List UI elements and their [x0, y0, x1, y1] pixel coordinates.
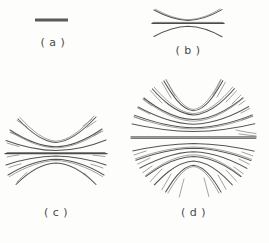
curve-lower-branch-b: [154, 26, 222, 37]
panel-label-b: ( b ): [150, 44, 226, 57]
tick-d-7: [232, 84, 251, 104]
tick-d-2: [163, 74, 175, 96]
curve-upper-branch-b-overstroke: [156, 9, 221, 20]
curve-upper-branch-2-c-overstroke: [11, 132, 101, 148]
panel-label-c: ( c ): [4, 206, 108, 219]
curve-lower-branch-4-d-overstroke: [132, 155, 256, 189]
curve-upper-branch-1-c: [6, 140, 106, 151]
panel-label-d: ( d ): [118, 206, 269, 219]
curve-upper-branch-3-c: [18, 117, 96, 143]
curve-upper-branch-4-d-overstroke: [132, 87, 256, 121]
curve-upper-branch-3-c-overstroke: [20, 116, 94, 141]
tick-d-1: [158, 76, 171, 98]
tick-c-7: [7, 155, 19, 157]
panel-b-artwork: [150, 6, 226, 40]
curve-upper-branch-5-d-overstroke: [145, 75, 242, 114]
curve-lower-branch-6-d-overstroke: [162, 167, 225, 205]
curve-upper-branch-2-c: [10, 129, 102, 147]
tick-d-12: [120, 112, 146, 121]
tick-d-18: [242, 152, 267, 161]
panel-c: [4, 112, 108, 190]
tick-d-13: [242, 111, 267, 120]
tick-c-11: [17, 173, 27, 183]
tick-d-4: [213, 74, 224, 95]
tick-d-24: [158, 174, 171, 196]
tick-d-26: [178, 179, 184, 202]
tick-c-8: [93, 155, 105, 156]
curve-group-d: [115, 71, 269, 205]
tick-c-10: [91, 164, 103, 168]
panel-b: [150, 6, 226, 40]
panel-a-artwork: [18, 8, 88, 32]
panel-d: [118, 72, 269, 200]
figure-root: ( a ) ( b ): [0, 0, 269, 243]
tick-c-9: [9, 164, 21, 168]
tick-d-14: [236, 130, 260, 134]
tick-d-9: [125, 101, 150, 114]
tick-d-3: [217, 75, 229, 97]
curve-group-upper-c: [6, 116, 106, 151]
curve-upper-branch-b: [154, 10, 222, 21]
tick-d-10: [239, 88, 261, 105]
tick-d-25: [218, 175, 230, 197]
panel-a: [18, 8, 88, 32]
tick-d-11: [241, 100, 264, 113]
tick-d-27: [204, 178, 210, 201]
tick-d-8: [129, 89, 152, 106]
tick-d-21: [234, 167, 257, 184]
panel-label-a: ( a ): [18, 36, 88, 49]
curve-lower-branch-3-c: [16, 163, 96, 185]
tick-d-16: [120, 151, 146, 160]
curve-lower-branch-2-c: [8, 159, 104, 175]
curve-group-lower-c: [6, 156, 106, 185]
panel-d-artwork: [118, 72, 269, 200]
tick-c-12: [84, 173, 94, 183]
panel-c-artwork: [4, 112, 108, 190]
